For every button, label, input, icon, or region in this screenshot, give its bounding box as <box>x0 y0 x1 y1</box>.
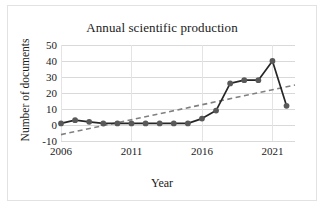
data-point <box>100 121 106 127</box>
data-point <box>213 108 219 114</box>
y-axis-tick-label: 10 <box>17 103 57 115</box>
chart-figure: Annual scientific production Number of d… <box>7 5 317 201</box>
data-point <box>143 121 149 127</box>
data-point <box>227 81 233 87</box>
y-axis-tick-label: 0 <box>17 119 57 131</box>
data-point <box>157 121 163 127</box>
data-point <box>185 121 191 127</box>
trendline <box>61 85 295 135</box>
series-markers <box>58 58 289 126</box>
x-axis-tick-label: 2021 <box>250 145 294 157</box>
data-point <box>86 119 92 125</box>
series-line <box>61 61 287 123</box>
y-axis-tick-label: 20 <box>17 87 57 99</box>
y-axis-tick-label: 50 <box>17 39 57 51</box>
y-axis-tick-label: 30 <box>17 71 57 83</box>
plot-area-wrapper: 50403020100-10 2006201120162021 <box>61 45 295 141</box>
chart-title: Annual scientific production <box>8 20 316 36</box>
data-point <box>241 77 247 83</box>
data-point <box>171 121 177 127</box>
data-point <box>129 121 135 127</box>
data-point <box>199 116 205 122</box>
data-point <box>114 121 120 127</box>
x-axis-label: Year <box>8 176 316 191</box>
y-axis-tick-label: 40 <box>17 55 57 67</box>
x-axis-tick-label: 2016 <box>180 145 224 157</box>
data-point <box>270 58 276 64</box>
data-plot <box>61 45 295 141</box>
x-axis-tick-label: 2006 <box>39 145 83 157</box>
data-point <box>284 103 290 109</box>
data-point <box>255 77 261 83</box>
gridline <box>61 141 295 142</box>
data-point <box>58 121 64 127</box>
data-point <box>72 117 78 123</box>
x-axis-tick-label: 2011 <box>109 145 153 157</box>
